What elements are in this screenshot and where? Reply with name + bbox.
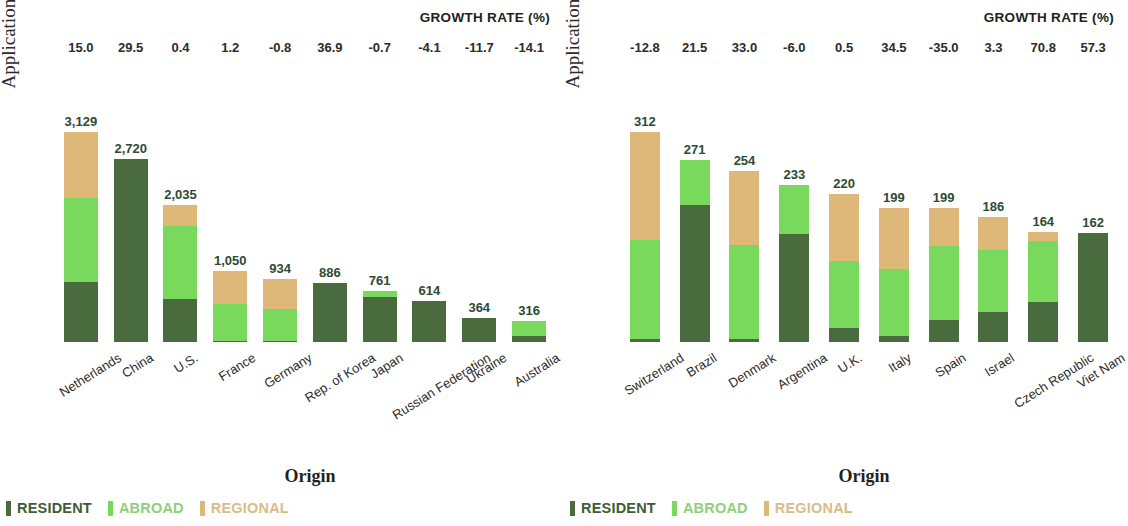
growth-rate-value: 33.0	[720, 40, 770, 58]
bar-value-label: 233	[783, 167, 805, 182]
stacked-bar[interactable]: 934	[263, 279, 297, 342]
stacked-bar[interactable]: 761	[363, 291, 397, 342]
x-axis-tick-label: U.S.	[172, 350, 201, 376]
stacked-bar[interactable]: 271	[680, 160, 710, 342]
bar-segment-abroad	[879, 269, 909, 336]
bar-slot: 220	[819, 110, 869, 342]
bar-value-label: 271	[684, 142, 706, 157]
growth-rate-value: 0.5	[819, 40, 869, 58]
legend-swatch-abroad-icon	[672, 501, 677, 516]
bar-segment-abroad	[829, 261, 859, 328]
x-axis-tick: Netherlands	[56, 346, 106, 456]
legend-label: REGIONAL	[775, 500, 853, 516]
bar-slot: 614	[405, 110, 455, 342]
stacked-bar[interactable]: 364	[462, 318, 496, 342]
bars-container-left: 3,1292,7202,0351,050934886761614364316	[56, 110, 554, 342]
x-axis-tick: Switzerland	[620, 346, 670, 456]
bar-slot: 254	[720, 110, 770, 342]
stacked-bar[interactable]: 162	[1078, 233, 1108, 342]
bars-container-right: 312271254233220199199186164162	[620, 110, 1118, 342]
stacked-bar[interactable]: 886	[313, 283, 347, 342]
y-axis-label-left: Applications	[0, 0, 24, 150]
bar-value-label: 162	[1082, 215, 1104, 230]
bar-value-label: 2,035	[164, 187, 197, 202]
bar-segment-abroad	[729, 245, 759, 339]
bar-segment-resident	[879, 336, 909, 342]
bar-value-label: 1,050	[214, 253, 247, 268]
x-axis-tick: Italy	[869, 346, 919, 456]
bar-value-label: 934	[269, 261, 291, 276]
bar-segment-resident	[114, 159, 148, 342]
growth-rate-value: -4.1	[405, 40, 455, 58]
stacked-bar[interactable]: 1,050	[213, 271, 247, 342]
x-axis-tick: Russian Federation	[405, 346, 455, 456]
stacked-bar[interactable]: 199	[879, 208, 909, 342]
growth-rate-value: -0.7	[355, 40, 405, 58]
legend-swatch-resident-icon	[570, 501, 575, 516]
bar-segment-abroad	[263, 309, 297, 341]
legend-label: REGIONAL	[211, 500, 289, 516]
bar-segment-regional	[213, 271, 247, 304]
legend-label: RESIDENT	[17, 500, 92, 516]
bar-segment-regional	[879, 208, 909, 269]
chart-panel-right: GROWTH RATE (%) -12.821.533.0-6.00.534.5…	[564, 0, 1128, 526]
stacked-bar[interactable]: 233	[779, 185, 809, 342]
stacked-bar[interactable]: 220	[829, 194, 859, 342]
x-axis-tick-label: Israel	[982, 350, 1017, 380]
x-axis-label-left: Origin	[0, 466, 564, 487]
legend-item-abroad[interactable]: ABROAD	[108, 500, 184, 516]
stacked-bar[interactable]: 199	[929, 208, 959, 342]
bar-segment-resident	[213, 341, 247, 343]
stacked-bar[interactable]: 316	[512, 321, 546, 342]
bar-segment-resident	[64, 282, 98, 342]
growth-rate-value: 0.4	[156, 40, 206, 58]
stacked-bar[interactable]: 3,129	[64, 132, 98, 342]
bar-slot: 233	[769, 110, 819, 342]
x-axis-ticks-right: SwitzerlandBrazilDenmarkArgentinaU.K.Ita…	[620, 346, 1118, 456]
bar-segment-regional	[729, 171, 759, 245]
bar-value-label: 186	[983, 199, 1005, 214]
y-axis-label-right: Applications	[562, 0, 588, 150]
growth-rate-value: 29.5	[106, 40, 156, 58]
stacked-bar[interactable]: 312	[630, 132, 660, 342]
bar-value-label: 220	[833, 176, 855, 191]
legend-right: RESIDENTABROADREGIONAL	[570, 500, 853, 516]
legend-swatch-regional-icon	[764, 501, 769, 516]
bar-segment-resident	[1028, 302, 1058, 342]
bar-segment-resident	[729, 339, 759, 342]
legend-left: RESIDENTABROADREGIONAL	[6, 500, 289, 516]
legend-item-regional[interactable]: REGIONAL	[764, 500, 853, 516]
legend-item-resident[interactable]: RESIDENT	[6, 500, 92, 516]
bar-segment-abroad	[630, 240, 660, 338]
growth-rate-value: 34.5	[869, 40, 919, 58]
x-axis-label-right: Origin	[564, 466, 1128, 487]
x-axis-tick: Argentina	[769, 346, 819, 456]
bar-segment-resident	[363, 297, 397, 342]
bar-segment-resident	[263, 341, 297, 343]
bar-slot: 3,129	[56, 110, 106, 342]
stacked-bar[interactable]: 164	[1028, 232, 1058, 342]
bar-segment-resident	[929, 320, 959, 342]
stacked-bar[interactable]: 2,720	[114, 159, 148, 342]
stacked-bar[interactable]: 2,035	[163, 205, 197, 342]
bar-segment-abroad	[64, 198, 98, 281]
bar-segment-resident	[779, 234, 809, 342]
bar-slot: 2,720	[106, 110, 156, 342]
legend-item-abroad[interactable]: ABROAD	[672, 500, 748, 516]
legend-item-resident[interactable]: RESIDENT	[570, 500, 656, 516]
bar-segment-resident	[412, 301, 446, 342]
legend-item-regional[interactable]: REGIONAL	[200, 500, 289, 516]
growth-rate-value: 3.3	[969, 40, 1019, 58]
bar-segment-resident	[512, 336, 546, 342]
bar-segment-abroad	[929, 246, 959, 320]
stacked-bar[interactable]: 614	[412, 301, 446, 342]
bar-value-label: 364	[468, 300, 490, 315]
legend-label: ABROAD	[119, 500, 184, 516]
chart-panel-left: GROWTH RATE (%) 15.029.50.41.2-0.836.9-0…	[0, 0, 564, 526]
stacked-bar[interactable]: 254	[729, 171, 759, 342]
x-axis-tick: Spain	[919, 346, 969, 456]
x-axis-tick: U.K.	[819, 346, 869, 456]
growth-rate-value: -35.0	[919, 40, 969, 58]
bar-segment-regional	[978, 217, 1008, 250]
stacked-bar[interactable]: 186	[978, 217, 1008, 342]
